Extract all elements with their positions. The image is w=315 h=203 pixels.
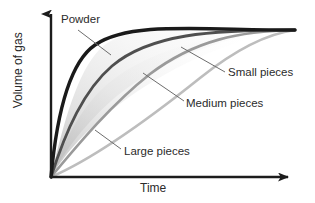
- series-label-powder: Powder: [61, 13, 100, 25]
- series-label-large-pieces: Large pieces: [124, 145, 190, 157]
- x-axis-label: Time: [140, 182, 166, 195]
- y-axis-label: Volume of gas: [12, 24, 25, 116]
- leader-line-powder: [78, 30, 111, 55]
- chart-canvas: [0, 0, 315, 203]
- reaction-rate-chart: Volume of gas Time Powder Small pieces M…: [0, 0, 315, 203]
- series-label-small-pieces: Small pieces: [228, 66, 293, 78]
- series-label-medium-pieces: Medium pieces: [186, 97, 263, 109]
- leader-line-medium-pieces: [143, 73, 184, 101]
